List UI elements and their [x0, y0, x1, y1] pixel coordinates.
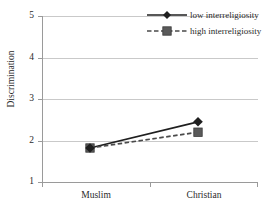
y-tick-mark-3 [38, 99, 43, 100]
discrimination-line-chart: 5 4 3 2 1 Discrimination Muslim Christia… [0, 0, 264, 212]
legend-item-high: high interreligiosity [146, 24, 262, 40]
y-tick-mark-5 [38, 16, 43, 17]
marker-high-muslim [86, 144, 94, 152]
legend-key-high-icon [146, 24, 188, 38]
y-tick-label-5: 5 [4, 11, 34, 21]
y-tick-mark-2 [38, 141, 43, 142]
gridline-2 [42, 141, 258, 142]
legend-label-high: high interreligiosity [190, 25, 261, 37]
legend-key-low-icon [146, 8, 188, 22]
y-tick-label-2: 2 [4, 136, 34, 146]
y-axis-title: Discrimination [6, 24, 16, 134]
marker-low-muslim [85, 143, 95, 153]
gridline-4 [42, 58, 258, 59]
y-tick-mark-4 [38, 58, 43, 59]
gridline-3 [42, 99, 258, 100]
marker-low-christian [193, 117, 203, 127]
chart-legend: low interreligiosity high interreligiosi… [146, 8, 262, 40]
x-tick-mark-left [42, 182, 43, 187]
y-tick-label-1: 1 [4, 177, 34, 187]
x-axis-label-muslim: Muslim [51, 190, 141, 200]
legend-item-low: low interreligiosity [146, 8, 262, 24]
marker-high-christian [194, 128, 202, 136]
x-tick-mark-right [257, 182, 258, 187]
x-axis-label-christian: Christian [159, 190, 249, 200]
series-low-line [90, 122, 198, 148]
legend-label-low: low interreligiosity [190, 9, 259, 21]
x-tick-mark-center [150, 182, 151, 187]
